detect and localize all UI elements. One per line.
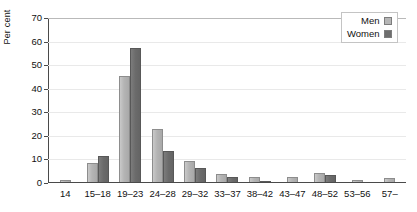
y-axis-tick-label: 0 bbox=[12, 178, 42, 187]
y-axis-tick-labels: 010203040506070 bbox=[10, 18, 42, 183]
x-axis-line bbox=[48, 182, 406, 183]
bar-group bbox=[146, 18, 178, 182]
x-axis-tick-label: 38–42 bbox=[244, 188, 276, 199]
bar-women bbox=[227, 177, 238, 182]
bar-group bbox=[81, 18, 113, 182]
y-axis-tick-label: 50 bbox=[12, 60, 42, 69]
y-axis-tick bbox=[44, 89, 48, 90]
bar-women bbox=[163, 151, 174, 182]
legend: Men Women bbox=[341, 12, 398, 43]
legend-swatch-men-icon bbox=[384, 17, 392, 25]
bar-men bbox=[384, 178, 395, 182]
bar-group bbox=[49, 18, 81, 182]
legend-label-women: Women bbox=[347, 29, 380, 39]
x-axis-tick-label: 24–28 bbox=[146, 188, 178, 199]
y-axis-tick bbox=[44, 65, 48, 66]
bar-men bbox=[152, 129, 163, 182]
bar-women bbox=[195, 168, 206, 182]
x-axis-tick-labels: 1415–1819–2324–2829–3233–3738–4243–4748–… bbox=[49, 188, 406, 199]
bar-men bbox=[87, 163, 98, 182]
bar-group bbox=[309, 18, 341, 182]
bar-men bbox=[249, 177, 260, 182]
bar-men bbox=[314, 173, 325, 182]
y-axis-tick-label: 10 bbox=[12, 154, 42, 163]
x-axis-tick-label: 57– bbox=[374, 188, 406, 199]
x-axis-tick-label: 29–32 bbox=[179, 188, 211, 199]
bar-men bbox=[352, 180, 363, 182]
bar-women bbox=[130, 48, 141, 182]
y-axis-tick-label: 60 bbox=[12, 37, 42, 46]
y-axis-tick bbox=[44, 18, 48, 19]
x-axis-tick-label: 14 bbox=[49, 188, 81, 199]
y-axis-tick bbox=[44, 183, 48, 184]
y-axis-tick bbox=[44, 112, 48, 113]
bar-women bbox=[98, 156, 109, 182]
y-axis-tick bbox=[44, 42, 48, 43]
x-axis-tick-label: 48–52 bbox=[309, 188, 341, 199]
y-axis-tick-label: 40 bbox=[12, 84, 42, 93]
bar-men bbox=[216, 174, 227, 182]
x-axis-tick-label: 53–56 bbox=[341, 188, 373, 199]
bar-men bbox=[184, 161, 195, 182]
y-axis-tick bbox=[44, 159, 48, 160]
x-axis-tick-label: 43–47 bbox=[276, 188, 308, 199]
x-axis-tick-label: 19–23 bbox=[114, 188, 146, 199]
legend-item-men: Men bbox=[347, 16, 392, 26]
legend-item-women: Women bbox=[347, 29, 392, 39]
y-axis-tick-label: 20 bbox=[12, 131, 42, 140]
bar-group bbox=[211, 18, 243, 182]
legend-label-men: Men bbox=[361, 16, 379, 26]
y-axis-tick bbox=[44, 136, 48, 137]
bar-men bbox=[287, 177, 298, 182]
legend-swatch-women-icon bbox=[384, 30, 392, 38]
bar-group bbox=[114, 18, 146, 182]
bar-women bbox=[260, 181, 271, 182]
bar-men bbox=[119, 76, 130, 182]
bar-group bbox=[276, 18, 308, 182]
x-axis-tick-label: 33–37 bbox=[211, 188, 243, 199]
bar-group bbox=[179, 18, 211, 182]
bar-men bbox=[60, 180, 71, 182]
x-axis-tick-label: 15–18 bbox=[81, 188, 113, 199]
y-axis-tick-label: 30 bbox=[12, 107, 42, 116]
bar-group bbox=[244, 18, 276, 182]
y-axis-tick-label: 70 bbox=[12, 13, 42, 22]
bar-chart: Per cent 010203040506070 1415–1819–2324–… bbox=[0, 0, 417, 212]
bar-women bbox=[325, 175, 336, 182]
